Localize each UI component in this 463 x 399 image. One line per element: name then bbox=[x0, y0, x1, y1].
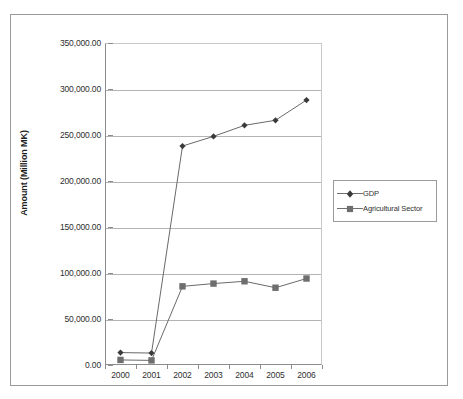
data-point-marker bbox=[241, 278, 247, 284]
data-point-marker bbox=[210, 280, 216, 286]
data-point-marker bbox=[272, 285, 278, 291]
x-axis-tick-mark bbox=[105, 365, 106, 369]
y-axis-tick-label: 100,000.00 bbox=[13, 269, 101, 278]
legend-label-agricultural-sector: Agricultural Sector bbox=[363, 204, 422, 213]
x-axis-tick-mark bbox=[198, 365, 199, 369]
diamond-marker-icon bbox=[337, 188, 363, 200]
x-axis-tick-mark bbox=[167, 365, 168, 369]
legend-label-gdp: GDP bbox=[363, 189, 379, 198]
chart-legend: GDP Agricultural Sector bbox=[333, 180, 437, 222]
y-axis-tick-label: 300,000.00 bbox=[13, 85, 101, 94]
data-point-marker bbox=[303, 275, 309, 281]
data-point-marker bbox=[117, 349, 123, 355]
data-point-marker bbox=[241, 122, 247, 128]
y-axis-tick-mark bbox=[108, 365, 113, 366]
chart-page: 350,000.00300,000.00250,000.00200,000.00… bbox=[0, 0, 463, 399]
y-axis-title: Amount (Million MK) bbox=[19, 103, 29, 243]
chart-series-layer bbox=[105, 43, 322, 365]
data-point-marker bbox=[303, 97, 309, 103]
data-point-marker bbox=[210, 133, 216, 139]
x-axis-tick-label: 2006 bbox=[287, 370, 327, 380]
y-axis-tick-label: 350,000.00 bbox=[13, 39, 101, 48]
x-axis-tick-mark bbox=[260, 365, 261, 369]
y-axis-tick-label: 0.00 bbox=[13, 361, 101, 370]
data-point-marker bbox=[272, 117, 278, 123]
data-point-marker bbox=[179, 283, 185, 289]
data-point-marker bbox=[179, 143, 185, 149]
x-axis-tick-mark bbox=[322, 365, 323, 369]
legend-item-gdp[interactable]: GDP bbox=[337, 186, 432, 201]
x-axis-tick-mark bbox=[291, 365, 292, 369]
x-axis-ticks: 2000200120022003200420052006 bbox=[105, 370, 322, 386]
x-axis-tick-mark bbox=[229, 365, 230, 369]
legend-item-agricultural-sector[interactable]: Agricultural Sector bbox=[337, 201, 432, 216]
x-axis-tick-mark bbox=[136, 365, 137, 369]
data-point-marker bbox=[148, 357, 154, 363]
y-axis-tick-label: 50,000.00 bbox=[13, 315, 101, 324]
data-point-marker bbox=[117, 357, 123, 363]
square-marker-icon bbox=[337, 203, 363, 215]
